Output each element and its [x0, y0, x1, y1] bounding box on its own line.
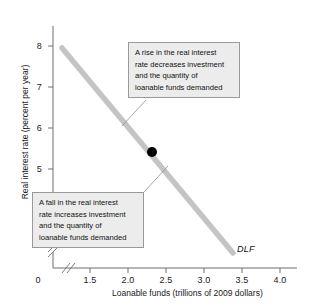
- y-tick-label-7: 7: [30, 82, 42, 92]
- fall-annotation-leader-line: [144, 166, 168, 192]
- y-tick-label-8: 8: [30, 41, 42, 51]
- curve-label-dlf: DLF: [237, 244, 255, 254]
- x-tick-label-2-0: 2.0: [121, 275, 134, 285]
- x-tick-label-4-0: 4.0: [273, 275, 286, 285]
- rise-annotation-leader-line: [122, 100, 146, 126]
- x-tick-label-2-5: 2.5: [159, 275, 172, 285]
- y-tick-label-5: 5: [30, 164, 42, 174]
- y-axis-title: Real interest rate (percent per year): [20, 52, 30, 212]
- x-axis-ticks: [90, 268, 280, 273]
- origin-label: 0: [35, 275, 40, 285]
- y-axis-ticks: [48, 46, 53, 210]
- x-tick-label-3-5: 3.5: [235, 275, 248, 285]
- fall-annotation-box: A fall in the real interest rate increas…: [32, 192, 144, 248]
- rise-annotation-box: A rise in the real interest rate decreas…: [128, 42, 240, 98]
- equilibrium-point-marker: [147, 147, 157, 157]
- x-axis-title: Loanable funds (trillions of 2009 dollar…: [112, 288, 263, 298]
- y-tick-label-6: 6: [30, 123, 42, 133]
- x-tick-label-3-0: 3.0: [197, 275, 210, 285]
- x-tick-label-1-5: 1.5: [83, 275, 96, 285]
- loanable-funds-demand-chart: 8 7 6 5 4 0 1.5 2.0 2.5 3.0 3.5 4.0 Loan…: [0, 0, 316, 307]
